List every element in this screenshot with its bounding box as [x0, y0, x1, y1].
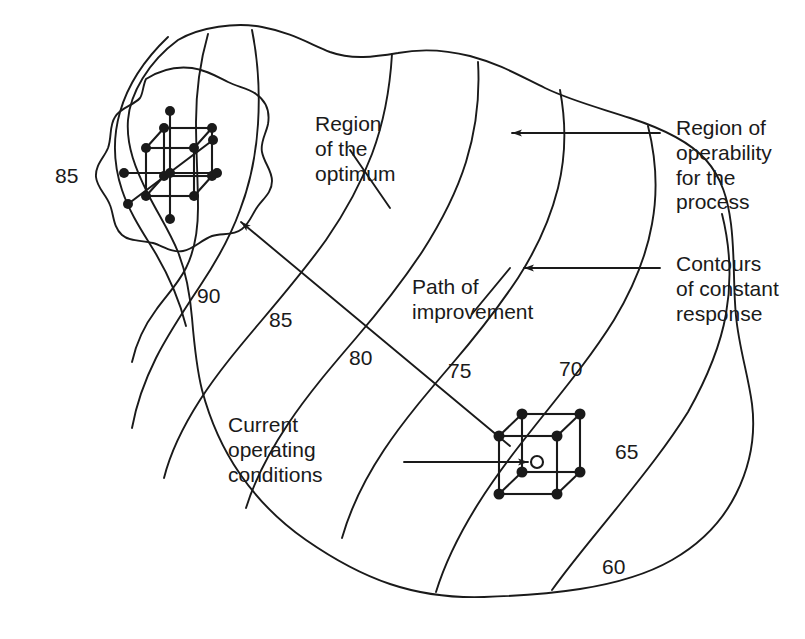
- contour-label-90: 90: [197, 284, 220, 309]
- region-of-the-optimum-label: Region of the optimum: [315, 112, 396, 186]
- contour-label-65: 65: [615, 440, 638, 465]
- cube-factorial-point: [517, 467, 528, 478]
- contour-label-85-inner: 85: [269, 308, 292, 333]
- ccd-center-point: [165, 168, 175, 178]
- ccd-factorial-point: [189, 143, 199, 153]
- ccd-factorial-point: [207, 123, 217, 133]
- cube-factorial-point: [552, 431, 563, 442]
- ccd-axial-point: [208, 135, 218, 145]
- ccd-factorial-point: [159, 123, 169, 133]
- contours-of-constant-response-label: Contours of constant response: [676, 252, 779, 326]
- contour-label-80: 80: [349, 346, 372, 371]
- contour-label-75: 75: [448, 359, 471, 384]
- contour-label-85-left: 85: [55, 164, 78, 189]
- cube-factorial-point: [494, 489, 505, 500]
- contour-label-60: 60: [602, 555, 625, 580]
- ccd-axial-point: [165, 214, 175, 224]
- cube-factorial-point: [575, 409, 586, 420]
- figure-canvas: 85 90 85 80 75 70 65 60 Region of operab…: [0, 0, 805, 639]
- contour-85-outer: [115, 37, 186, 326]
- current-conditions-cube: [494, 409, 586, 500]
- ccd-factorial-point: [189, 191, 199, 201]
- cube-factorial-point: [517, 409, 528, 420]
- contour-label-70: 70: [559, 357, 582, 382]
- ccd-axial-point: [165, 106, 175, 116]
- contour-85-inner: [132, 30, 259, 428]
- path-of-improvement-label: Path of improvement: [412, 275, 533, 325]
- ccd-axial-point: [212, 168, 222, 178]
- current-operating-conditions-label: Current operating conditions: [228, 413, 323, 487]
- region-of-operability-label: Region of operability for the process: [676, 116, 772, 215]
- ccd-factorial-point: [141, 143, 151, 153]
- cube-factorial-point: [552, 489, 563, 500]
- region-of-optimum-boundary: [96, 67, 272, 251]
- ccd-axial-point: [123, 199, 133, 209]
- ccd-axial-point: [119, 168, 129, 178]
- ccd-factorial-point: [141, 191, 151, 201]
- cube-factorial-point: [575, 467, 586, 478]
- cube-center-point: [531, 456, 543, 468]
